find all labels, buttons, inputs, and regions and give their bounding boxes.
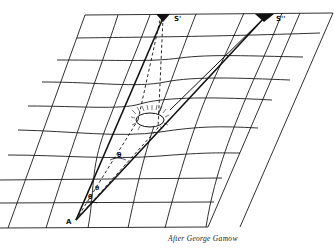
label-observer-a: A [66, 218, 72, 226]
label-s-prime: S' [174, 15, 181, 23]
star-s-double-prime-marker [255, 14, 274, 22]
label-theta-2: θ [95, 184, 99, 191]
light-rays [76, 18, 264, 220]
label-s-double-prime: S'' [276, 15, 285, 23]
figure-caption: After George Gamow [168, 234, 238, 243]
label-theta-3: θ [117, 151, 122, 159]
spacetime-curvature-diagram: S' S'' A θ θ θ [0, 0, 334, 249]
spacetime-grid [0, 13, 333, 228]
label-theta-1: θ [88, 193, 93, 201]
star-s-prime-marker [156, 14, 170, 22]
